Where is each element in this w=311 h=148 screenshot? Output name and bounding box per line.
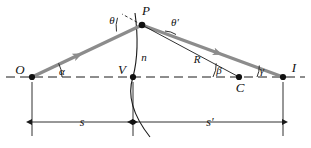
label-refractive-index-n: n: [141, 51, 147, 63]
point-dot-V: [130, 74, 136, 80]
label-radius-R: R: [193, 53, 201, 65]
theta-angle-arc: [116, 18, 117, 32]
normal-dashed-at-P: [122, 14, 142, 25]
label-angle-theta: θ: [109, 14, 115, 26]
label-angle-beta: β: [215, 64, 222, 76]
label-point-O: O: [15, 62, 25, 77]
label-dimension-s: s: [80, 115, 85, 129]
label-dimension-s-prime: s′: [206, 115, 214, 129]
label-point-C: C: [236, 80, 245, 95]
point-dot-O: [29, 74, 35, 80]
label-angle-theta-prime: θ′: [171, 16, 179, 28]
point-dot-I: [280, 74, 286, 80]
refracted-ray-arrowhead: [198, 46, 218, 53]
label-angle-gamma: γ: [260, 64, 265, 76]
incident-ray-arrowhead: [60, 55, 78, 64]
label-point-V: V: [118, 62, 128, 77]
label-point-P: P: [141, 3, 150, 18]
point-dot-V-dimension: [130, 119, 135, 124]
label-angle-alpha: α: [59, 65, 65, 77]
point-dot-P: [139, 22, 146, 29]
label-point-I: I: [291, 60, 297, 75]
radius-line-PC: [142, 25, 239, 77]
diagram-canvas: O P V C I θ θ′ α β γ n R s s′: [0, 0, 311, 148]
optics-refraction-figure: O P V C I θ θ′ α β γ n R s s′: [0, 0, 311, 148]
